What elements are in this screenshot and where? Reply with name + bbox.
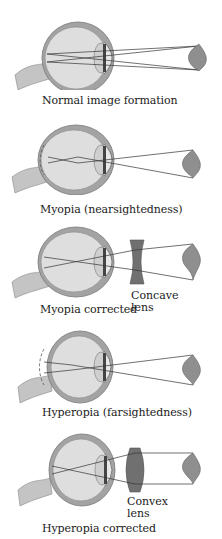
eye-diagram-myopia-corrected [0, 210, 222, 300]
caption-hyperopia-corrected: Hyperopia corrected [42, 522, 156, 535]
leaf-object-icon [182, 150, 200, 178]
panel-myopia-corrected: Concave lens Myopia corrected [0, 210, 222, 315]
panel-normal: Normal image formation [0, 0, 222, 105]
caption-hyperopia: Hyperopia (farsightedness) [42, 406, 192, 419]
panel-myopia: Myopia (nearsightedness) [0, 105, 222, 210]
leaf-object-icon [188, 44, 206, 71]
panel-hyperopia: Hyperopia (farsightedness) [0, 315, 222, 420]
eye-diagram-myopia [0, 105, 222, 195]
eye-diagram-hyperopia [0, 315, 222, 405]
eye-diagram-hyperopia-corrected [0, 420, 222, 510]
leaf-object-icon [182, 453, 200, 484]
panel-hyperopia-corrected: Convex lens Hyperopia corrected [0, 420, 222, 539]
convex-lens-label: Convex lens [127, 496, 168, 520]
eye-diagram-normal [0, 0, 222, 90]
leaf-object-icon [182, 244, 200, 280]
leaf-object-icon [182, 355, 200, 385]
iris-icon [103, 44, 106, 72]
concave-lens-icon [130, 240, 144, 284]
concave-lens-label: Concave lens [131, 290, 179, 314]
